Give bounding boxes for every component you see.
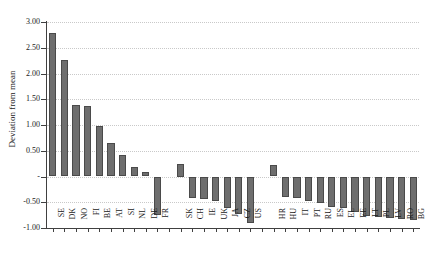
gridline [47, 99, 419, 100]
y-tick: -1.00 [0, 224, 40, 232]
x-tick-mark [204, 228, 205, 232]
x-tick-mark [378, 228, 379, 232]
bar [142, 172, 149, 176]
bar [293, 177, 300, 198]
x-tick-mark [76, 228, 77, 232]
x-tick-mark [157, 228, 158, 232]
bar [177, 164, 184, 177]
x-tick-mark [123, 228, 124, 232]
y-tick-label: - [0, 173, 40, 181]
x-tick-mark [216, 228, 217, 232]
x-tick-mark [192, 228, 193, 232]
y-tick: 1.50 [0, 95, 40, 103]
x-tick-mark [227, 228, 228, 232]
y-axis-line [46, 21, 47, 229]
y-tick-label: 3.00 [0, 18, 40, 26]
bar [224, 177, 231, 209]
x-tick-mark [274, 228, 275, 232]
x-tick-mark [355, 228, 356, 232]
bar [131, 167, 138, 177]
x-tick-mark [320, 228, 321, 232]
x-tick-mark [332, 228, 333, 232]
x-tick-mark [99, 228, 100, 232]
bar [189, 177, 196, 198]
x-tick-mark [250, 228, 251, 232]
bar [96, 126, 103, 176]
x-tick-mark [297, 228, 298, 232]
bar [119, 155, 126, 176]
bar [84, 106, 91, 176]
bar [282, 177, 289, 198]
bar [317, 177, 324, 204]
bar [200, 177, 207, 199]
x-tick-mark [402, 228, 403, 232]
y-tick: 3.00 [0, 18, 40, 26]
bar [107, 143, 114, 176]
x-tick-mark [88, 228, 89, 232]
x-tick-mark [390, 228, 391, 232]
y-tick-label: -1.00 [0, 224, 40, 232]
y-tick-label: 2.00 [0, 70, 40, 78]
y-tick: 2.50 [0, 44, 40, 52]
plot-area [47, 22, 419, 228]
bar [305, 177, 312, 202]
x-tick-mark [53, 228, 54, 232]
bar [212, 177, 219, 202]
bar [328, 177, 335, 207]
y-tick: 0.50 [0, 147, 40, 155]
y-tick-label: -0.50 [0, 198, 40, 206]
clipped-header-text [0, 0, 426, 2]
gridline [47, 48, 419, 49]
x-tick-mark [309, 228, 310, 232]
y-tick-label: 1.50 [0, 95, 40, 103]
y-tick-label: 2.50 [0, 44, 40, 52]
x-tick-mark [285, 228, 286, 232]
y-tick: 2.00 [0, 70, 40, 78]
y-tick-label: 0.50 [0, 147, 40, 155]
x-tick-mark [367, 228, 368, 232]
x-tick-mark [134, 228, 135, 232]
x-tick-label: BG [417, 208, 426, 234]
bar [61, 60, 68, 176]
x-tick-mark [413, 228, 414, 232]
bar [72, 105, 79, 176]
x-tick-mark [262, 228, 263, 232]
x-tick-mark [343, 228, 344, 232]
gridline [47, 22, 419, 23]
gridline [47, 74, 419, 75]
x-tick-mark [146, 228, 147, 232]
bar [351, 177, 358, 213]
x-tick-mark [181, 228, 182, 232]
x-tick-mark [111, 228, 112, 232]
bar [340, 177, 347, 208]
y-tick: 1.00 [0, 121, 40, 129]
bar [49, 33, 56, 176]
x-tick-mark [64, 228, 65, 232]
y-tick: -0.50 [0, 198, 40, 206]
x-tick-mark [239, 228, 240, 232]
bar [270, 165, 277, 177]
x-tick-mark [169, 228, 170, 232]
chart-figure: Deviation from mean -1.00-0.50-0.501.001… [0, 0, 426, 269]
y-tick: - [0, 173, 40, 181]
y-tick-label: 1.00 [0, 121, 40, 129]
